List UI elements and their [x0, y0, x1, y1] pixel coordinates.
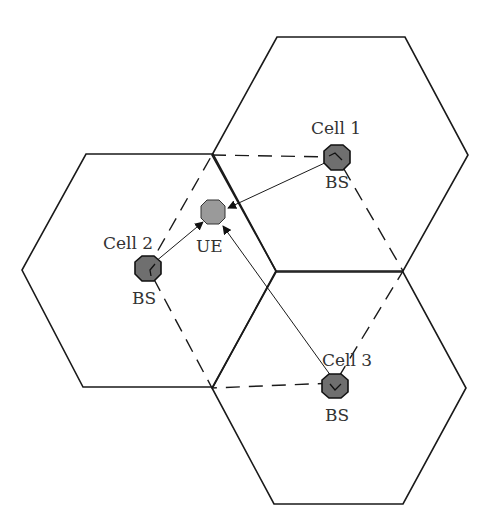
base-station-icon [324, 145, 350, 170]
link-cell3-to-ue [223, 226, 331, 376]
cell2-bs-label: BS [132, 288, 156, 308]
cell1-base-station [324, 145, 350, 170]
cell2-label: Cell 2 [103, 233, 153, 253]
base-station-icon [322, 374, 348, 398]
user-equipment-icon [201, 200, 225, 224]
base-station-icon [135, 256, 161, 281]
cell2-base-station [135, 256, 161, 281]
cell1-label: Cell 1 [311, 118, 361, 138]
ue-label: UE [196, 236, 223, 256]
cell3-base-station [322, 374, 348, 398]
cell1-bs-label: BS [325, 172, 349, 192]
cell3-bs-label: BS [325, 405, 349, 425]
cellular-diagram: Cell 1 BS Cell 2 BS Cell 3 BS UE [0, 0, 491, 531]
link-cell1-to-ue [228, 161, 329, 208]
cell3-label: Cell 3 [322, 350, 372, 370]
